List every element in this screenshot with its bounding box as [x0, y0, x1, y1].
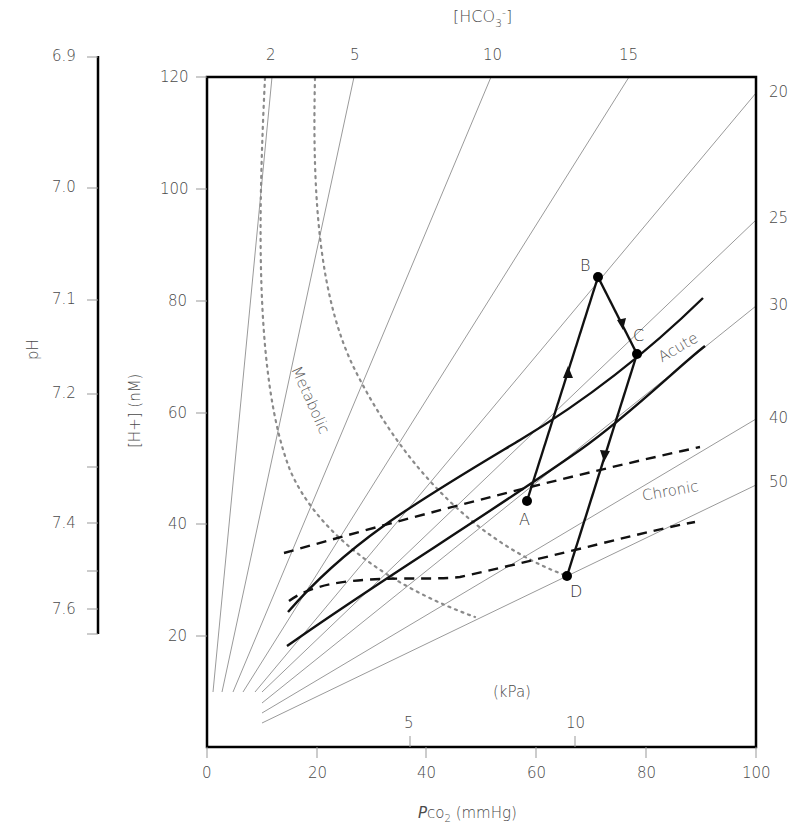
hco3-right-tick: 25	[769, 211, 788, 226]
y-axis-ticks	[196, 77, 207, 636]
point-c-label: C	[633, 328, 644, 344]
pco2-tick: 60	[527, 766, 546, 781]
pco2-tick: 0	[202, 766, 212, 781]
pco2-title-unit: (mmHg)	[451, 804, 517, 822]
chronic-band	[284, 447, 700, 601]
hco3-right-tick: 40	[769, 411, 788, 426]
h-tick: 40	[168, 517, 187, 532]
ph-axis-title: pH	[26, 339, 41, 360]
pco2-tick: 40	[417, 766, 436, 781]
hco3-tick: 15	[619, 48, 638, 63]
ph-axis	[87, 56, 98, 634]
acute-band	[287, 298, 705, 646]
h-axis-title: [H+] (nM)	[128, 374, 143, 448]
point-d-label: D	[570, 584, 582, 600]
h-tick: 80	[168, 294, 187, 309]
h-tick: 100	[160, 182, 189, 197]
hco3-axis-title: [HCO3-]	[453, 7, 512, 29]
diagram-canvas	[0, 0, 811, 836]
pco2-tick: 100	[742, 766, 771, 781]
kpa-tick: 5	[404, 716, 414, 731]
acid-base-diagram: [HCO3-] 2 5 10 15 20 25 30 40 50 6.9 7.0…	[0, 0, 811, 836]
hco3-title-close: ]	[506, 7, 512, 26]
ph-tick: 7.6	[52, 602, 76, 617]
hco3-title-sub: 3	[495, 17, 502, 30]
arrow-up-icon	[563, 366, 573, 378]
point-b-label: B	[580, 258, 590, 274]
hco3-right-tick: 30	[769, 298, 788, 313]
hco3-title-main: [HCO	[453, 7, 495, 26]
ph-tick: 6.9	[52, 49, 76, 64]
point-c-marker	[632, 349, 642, 359]
pco2-title-p: P	[418, 804, 427, 822]
pco2-tick: 80	[637, 766, 656, 781]
h-tick: 120	[160, 70, 189, 85]
h-tick: 60	[168, 406, 187, 421]
hco3-tick: 10	[483, 48, 502, 63]
pco2-tick: 20	[308, 766, 327, 781]
ph-tick: 7.1	[52, 292, 76, 307]
plot-frame	[207, 77, 756, 747]
point-b-marker	[593, 272, 603, 282]
ph-tick: 7.0	[52, 180, 76, 195]
kpa-tick: 10	[566, 716, 585, 731]
metabolic-curves	[261, 78, 567, 617]
hco3-isopleths	[213, 77, 756, 723]
ph-tick: 7.2	[52, 386, 76, 401]
h-tick: 20	[168, 629, 187, 644]
pco2-axis-title: Pco2 (mmHg)	[418, 806, 517, 824]
point-d-marker	[562, 571, 572, 581]
hco3-tick: 5	[350, 48, 360, 63]
hco3-right-tick: 20	[769, 85, 788, 100]
pco2-title-co: co	[427, 804, 444, 822]
kpa-axis-title: (kPa)	[493, 685, 531, 700]
ph-tick: 7.4	[52, 516, 76, 531]
arrow-down-icon	[600, 450, 610, 462]
point-a-label: A	[519, 512, 530, 528]
hco3-right-tick: 50	[769, 475, 788, 490]
point-a-marker	[522, 496, 532, 506]
hco3-tick: 2	[266, 48, 276, 63]
